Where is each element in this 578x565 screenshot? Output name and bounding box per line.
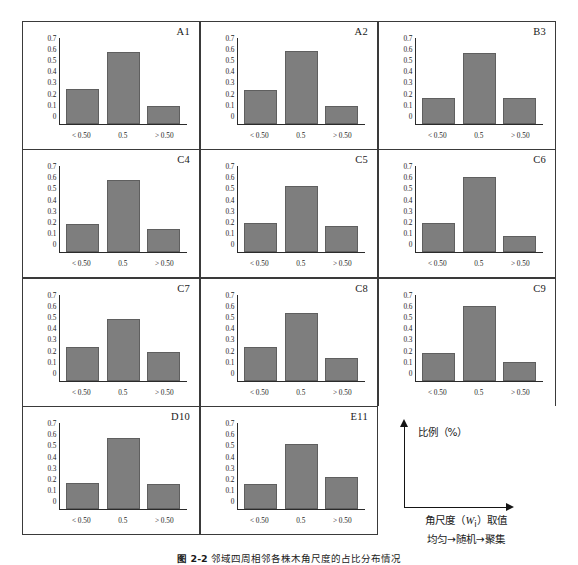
y-tick-label: 0.2	[47, 347, 56, 355]
bar	[463, 306, 496, 381]
bar	[422, 223, 455, 252]
y-tick-label: 0	[231, 370, 235, 378]
legend-y-axis-line	[404, 426, 405, 508]
bar	[463, 53, 496, 123]
y-tick-label: 0.1	[47, 487, 56, 495]
chart-panel-c6: C60.70.60.50.40.30.20.10< 0.500.5> 0.50	[378, 149, 557, 278]
y-tick-label: 0.4	[403, 325, 412, 333]
x-tick-label: 0.5	[282, 388, 319, 397]
y-tick-label: 0.3	[47, 79, 56, 87]
x-tick-label: < 0.50	[63, 131, 100, 140]
y-tick-label: 0.7	[225, 34, 234, 42]
bar-series	[60, 295, 188, 381]
y-tick-label: 0	[231, 498, 235, 506]
x-tick-label: > 0.50	[146, 388, 183, 397]
legend-x-symbol: W	[465, 515, 474, 526]
y-tick-label: 0.1	[225, 102, 234, 110]
bar-series	[238, 38, 366, 124]
legend-x-pre: 角尺度（	[425, 514, 465, 526]
y-axis-ticks: 0.70.60.50.40.30.20.10	[213, 295, 235, 381]
x-axis-labels: < 0.500.5> 0.50	[59, 388, 188, 397]
panel-grid: A10.70.60.50.40.30.20.10< 0.500.5> 0.50A…	[22, 21, 556, 535]
chart-panel-d10: D100.70.60.50.40.30.20.10< 0.500.5> 0.50	[22, 406, 201, 535]
x-tick-label: < 0.50	[419, 131, 456, 140]
y-tick-label: 0.4	[47, 325, 56, 333]
bar-series	[416, 295, 544, 381]
y-tick-label: 0.2	[225, 476, 234, 484]
y-tick-label: 0.6	[47, 46, 56, 54]
y-tick-label: 0.5	[403, 314, 412, 322]
bar	[325, 106, 358, 123]
bar	[66, 89, 99, 123]
y-tick-label: 0.1	[47, 359, 56, 367]
y-tick-label: 0.5	[225, 185, 234, 193]
plot-area	[415, 166, 544, 253]
panel-axes: 0.70.60.50.40.30.20.10< 0.500.5> 0.50	[391, 32, 546, 139]
bar-series	[60, 38, 188, 124]
y-tick-label: 0.3	[47, 465, 56, 473]
y-tick-label: 0.2	[47, 219, 56, 227]
y-tick-label: 0.5	[225, 314, 234, 322]
y-tick-label: 0.6	[225, 46, 234, 54]
legend-x-axis-label: 角尺度（Wi）取值均匀→随机→聚集	[384, 513, 549, 547]
x-tick-label: > 0.50	[324, 516, 361, 525]
y-tick-label: 0.4	[225, 325, 234, 333]
chart-panel-c9: C90.70.60.50.40.30.20.10< 0.500.5> 0.50	[378, 278, 557, 407]
figure-caption-text: 邻域四周相邻各株木角尺度的占比分布情况	[211, 553, 401, 564]
y-tick-label: 0.4	[47, 453, 56, 461]
x-axis-labels: < 0.500.5> 0.50	[59, 131, 188, 140]
panel-axes: 0.70.60.50.40.30.20.10< 0.500.5> 0.50	[213, 32, 368, 139]
y-tick-label: 0.3	[47, 336, 56, 344]
panel-axes: 0.70.60.50.40.30.20.10< 0.500.5> 0.50	[35, 160, 190, 267]
bar	[325, 358, 358, 380]
x-tick-label: > 0.50	[324, 131, 361, 140]
x-axis-labels: < 0.500.5> 0.50	[415, 388, 544, 397]
legend-schematic: 比例（%）角尺度（Wi）取值均匀→随机→聚集	[378, 406, 557, 535]
bar	[66, 224, 99, 252]
y-tick-label: 0.2	[47, 90, 56, 98]
y-tick-label: 0.3	[403, 208, 412, 216]
y-axis-ticks: 0.70.60.50.40.30.20.10	[213, 38, 235, 124]
y-tick-label: 0.5	[47, 185, 56, 193]
bar	[503, 98, 536, 124]
bar	[147, 484, 180, 509]
y-tick-label: 0.5	[47, 57, 56, 65]
x-axis-labels: < 0.500.5> 0.50	[59, 516, 188, 525]
panel-axes: 0.70.60.50.40.30.20.10< 0.500.5> 0.50	[35, 32, 190, 139]
bar	[285, 444, 318, 509]
y-tick-label: 0.5	[47, 442, 56, 450]
y-axis-ticks: 0.70.60.50.40.30.20.10	[35, 38, 57, 124]
x-tick-label: 0.5	[460, 388, 497, 397]
y-tick-label: 0	[53, 241, 57, 249]
chart-panel-c7: C70.70.60.50.40.30.20.10< 0.500.5> 0.50	[22, 278, 201, 407]
x-axis-labels: < 0.500.5> 0.50	[237, 516, 366, 525]
bar	[463, 177, 496, 252]
bar	[285, 313, 318, 381]
x-tick-label: 0.5	[282, 259, 319, 268]
y-tick-label: 0	[409, 370, 413, 378]
y-tick-label: 0	[409, 113, 413, 121]
x-axis-labels: < 0.500.5> 0.50	[237, 131, 366, 140]
chart-panel-e11: E110.70.60.50.40.30.20.10< 0.500.5> 0.50	[200, 406, 379, 535]
x-tick-label: > 0.50	[502, 388, 539, 397]
y-tick-label: 0.7	[47, 291, 56, 299]
y-tick-label: 0.3	[225, 336, 234, 344]
y-tick-label: 0.5	[403, 185, 412, 193]
y-tick-label: 0.3	[225, 79, 234, 87]
y-tick-label: 0.1	[403, 359, 412, 367]
panel-axes: 0.70.60.50.40.30.20.10< 0.500.5> 0.50	[35, 289, 190, 396]
y-axis-ticks: 0.70.60.50.40.30.20.10	[213, 423, 235, 509]
plot-area	[59, 166, 188, 253]
y-tick-label: 0.6	[403, 303, 412, 311]
y-tick-label: 0.4	[225, 196, 234, 204]
y-tick-label: 0.6	[403, 174, 412, 182]
bar	[147, 229, 180, 252]
x-tick-label: < 0.50	[63, 388, 100, 397]
legend-x-axis-line2: 均匀→随机→聚集	[384, 532, 549, 547]
plot-area	[59, 38, 188, 125]
y-tick-label: 0.2	[225, 90, 234, 98]
y-axis-ticks: 0.70.60.50.40.30.20.10	[391, 295, 413, 381]
y-tick-label: 0.7	[403, 163, 412, 171]
y-tick-label: 0.7	[225, 163, 234, 171]
y-tick-label: 0.4	[225, 68, 234, 76]
